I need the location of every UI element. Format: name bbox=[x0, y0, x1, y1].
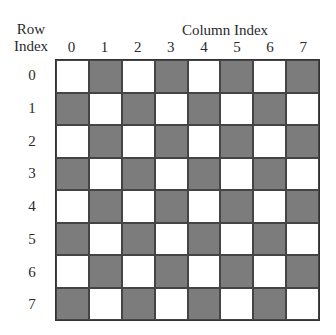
board-cell-light bbox=[286, 93, 319, 126]
board-cell-dark bbox=[89, 190, 122, 223]
row-index-label: 6 bbox=[22, 264, 42, 280]
column-index-title: Column Index bbox=[130, 22, 320, 38]
board-cell-dark bbox=[286, 190, 319, 223]
board-cell-dark bbox=[286, 125, 319, 158]
board-cell-light bbox=[286, 158, 319, 191]
board-cell-light bbox=[188, 255, 221, 288]
row-index-label: 4 bbox=[22, 198, 42, 214]
board-cell-light bbox=[155, 288, 188, 321]
column-index-label: 7 bbox=[287, 39, 320, 55]
board-cell-light bbox=[89, 288, 122, 321]
board-cell-dark bbox=[188, 158, 221, 191]
row-index-label: 1 bbox=[22, 100, 42, 116]
board-cell-light bbox=[89, 93, 122, 126]
column-index-label: 5 bbox=[221, 39, 254, 55]
board-cell-light bbox=[220, 288, 253, 321]
board-cell-light bbox=[56, 125, 89, 158]
board-cell-dark bbox=[220, 255, 253, 288]
column-index-label: 0 bbox=[55, 39, 88, 55]
board-cell-light bbox=[89, 158, 122, 191]
board-cell-dark bbox=[56, 223, 89, 256]
board-cell-light bbox=[253, 125, 286, 158]
row-index-label: 5 bbox=[22, 231, 42, 247]
column-index-label: 1 bbox=[88, 39, 121, 55]
board-cell-dark bbox=[253, 93, 286, 126]
column-index-label: 4 bbox=[187, 39, 220, 55]
row-index-label: 3 bbox=[22, 165, 42, 181]
board-cell-light bbox=[122, 125, 155, 158]
board-cell-light bbox=[188, 125, 221, 158]
board-cell-dark bbox=[188, 288, 221, 321]
row-index-label: 0 bbox=[22, 67, 42, 83]
board-cell-dark bbox=[253, 158, 286, 191]
checkerboard-grid bbox=[55, 59, 320, 321]
board-cell-dark bbox=[89, 60, 122, 93]
board-cell-dark bbox=[286, 255, 319, 288]
board-cell-dark bbox=[122, 93, 155, 126]
board-cell-dark bbox=[155, 60, 188, 93]
board-cell-dark bbox=[155, 190, 188, 223]
board-cell-dark bbox=[188, 223, 221, 256]
board-cell-light bbox=[253, 60, 286, 93]
board-cell-light bbox=[122, 60, 155, 93]
board-cell-light bbox=[188, 190, 221, 223]
board-cell-light bbox=[188, 60, 221, 93]
board-cell-dark bbox=[155, 255, 188, 288]
board-cell-light bbox=[253, 190, 286, 223]
board-cell-dark bbox=[155, 125, 188, 158]
board-cell-light bbox=[253, 255, 286, 288]
board-cell-dark bbox=[89, 125, 122, 158]
board-cell-dark bbox=[220, 125, 253, 158]
board-cell-dark bbox=[253, 223, 286, 256]
board-cell-light bbox=[155, 93, 188, 126]
row-index-label: 7 bbox=[22, 296, 42, 312]
board-cell-light bbox=[56, 255, 89, 288]
row-index-title-line2: Index bbox=[6, 38, 56, 55]
board-cell-dark bbox=[56, 93, 89, 126]
board-cell-light bbox=[122, 190, 155, 223]
board-cell-dark bbox=[122, 223, 155, 256]
board-cell-dark bbox=[56, 158, 89, 191]
board-cell-dark bbox=[122, 158, 155, 191]
board-cell-light bbox=[56, 60, 89, 93]
board-cell-light bbox=[220, 158, 253, 191]
board-cell-dark bbox=[286, 60, 319, 93]
board-cell-light bbox=[220, 223, 253, 256]
column-index-label: 3 bbox=[154, 39, 187, 55]
column-index-label: 6 bbox=[254, 39, 287, 55]
board-cell-light bbox=[89, 223, 122, 256]
board-cell-dark bbox=[253, 288, 286, 321]
board-cell-light bbox=[155, 158, 188, 191]
row-index-title-line1: Row bbox=[6, 21, 56, 38]
board-cell-dark bbox=[220, 190, 253, 223]
board-cell-light bbox=[56, 190, 89, 223]
board-cell-dark bbox=[56, 288, 89, 321]
column-index-label: 2 bbox=[121, 39, 154, 55]
board-cell-dark bbox=[188, 93, 221, 126]
board-cell-dark bbox=[122, 288, 155, 321]
board-cell-light bbox=[122, 255, 155, 288]
row-index-title: Row Index bbox=[6, 21, 56, 55]
board-cell-light bbox=[155, 223, 188, 256]
board-cell-dark bbox=[89, 255, 122, 288]
row-index-label: 2 bbox=[22, 133, 42, 149]
board-cell-light bbox=[286, 288, 319, 321]
board-cell-light bbox=[220, 93, 253, 126]
board-cell-dark bbox=[220, 60, 253, 93]
board-cell-light bbox=[286, 223, 319, 256]
